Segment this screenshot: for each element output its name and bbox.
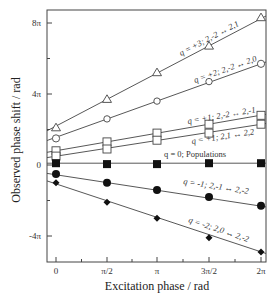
series-label-q0: q = 0; Populations <box>164 149 226 159</box>
series-label-q2: q = +2; 2,-2 ↔ 2,0 <box>192 53 258 85</box>
x-tick-label: 3π/2 <box>201 266 217 276</box>
y-tick-label: 4π <box>32 89 42 99</box>
x-tick-label: π <box>155 266 160 276</box>
series-q1b-markers <box>52 120 265 160</box>
y-tick-label: -4π <box>29 231 41 241</box>
phase-shift-chart: 8π 4π 0 -4π 0 π/2 π 3π/2 2π Excitation p… <box>0 0 278 301</box>
series-label-q1b: q = +1; 2,1 ↔ 2,2 <box>191 126 256 146</box>
series-label-qm1: q = -1; 2,-1 ↔ 2,-2 <box>183 176 250 196</box>
x-tick-label: 2π <box>256 266 266 276</box>
y-tick-label: 8π <box>32 18 42 28</box>
y-axis-title: Observed phase shift / rad <box>9 77 23 202</box>
x-axis-title: Excitation phase / rad <box>105 279 209 293</box>
series-label-q1a: q = +1; 2,-2 ↔ 2,-1 <box>187 104 257 126</box>
x-tick-label: 0 <box>54 266 59 276</box>
x-ticks <box>56 257 261 262</box>
series-label-qm2: q = -2; 2,0 ↔ 2,-2 <box>187 214 251 244</box>
y-tick-label: 0 <box>37 160 42 170</box>
x-tick-label: π/2 <box>101 266 113 276</box>
series-label-q3: q = +3; 2,-2 ↔ 2,1 <box>177 18 240 57</box>
triangle-marker <box>103 95 112 103</box>
